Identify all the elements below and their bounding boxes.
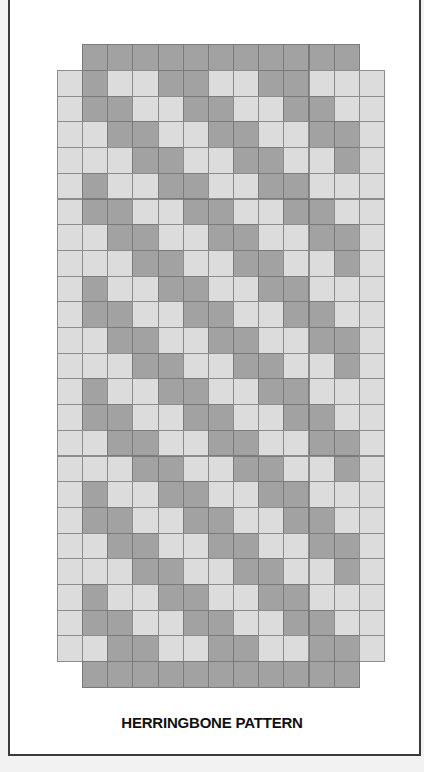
grid-cell-light: [107, 378, 133, 405]
cap-cell-bottom: [208, 661, 234, 688]
grid-cell-dark: [258, 276, 284, 303]
cap-cell-top: [233, 44, 259, 71]
grid-cell-light: [208, 173, 234, 200]
grid-cell-light: [233, 404, 259, 431]
grid-cell-light: [309, 276, 335, 303]
grid-cell-light: [334, 301, 360, 328]
grid-cell-light: [132, 584, 158, 611]
grid-cell-dark: [107, 610, 133, 637]
grid-cell-light: [82, 635, 108, 662]
grid-cell-dark: [82, 481, 108, 508]
grid-cell-light: [57, 327, 83, 354]
grid-cell-dark: [82, 584, 108, 611]
grid-cell-light: [82, 147, 108, 174]
grid-cell-dark: [334, 327, 360, 354]
grid-cell-dark: [208, 96, 234, 123]
grid-cell-light: [233, 70, 259, 97]
grid-cell-dark: [107, 327, 133, 354]
figure-caption: HERRINGBONE PATTERN: [0, 714, 424, 731]
grid-cell-light: [233, 507, 259, 534]
grid-cell-dark: [107, 224, 133, 251]
grid-cell-light: [57, 456, 83, 483]
grid-cell-light: [107, 173, 133, 200]
grid-cell-light: [132, 610, 158, 637]
grid-cell-light: [183, 224, 209, 251]
grid-cell-light: [233, 301, 259, 328]
grid-cell-dark: [183, 610, 209, 637]
grid-cell-light: [158, 404, 184, 431]
grid-cell-light: [82, 430, 108, 457]
grid-cell-light: [57, 533, 83, 560]
cap-cell-bottom: [158, 661, 184, 688]
grid-cell-dark: [233, 430, 259, 457]
grid-cell-dark: [183, 378, 209, 405]
grid-cell-dark: [208, 199, 234, 226]
grid-cell-light: [258, 121, 284, 148]
grid-cell-dark: [183, 70, 209, 97]
grid-cell-light: [57, 481, 83, 508]
grid-cell-light: [208, 481, 234, 508]
grid-cell-light: [57, 147, 83, 174]
grid-cell-light: [82, 224, 108, 251]
grid-cell-dark: [309, 301, 335, 328]
grid-cell-dark: [107, 96, 133, 123]
grid-cell-light: [158, 430, 184, 457]
grid-cell-light: [359, 558, 385, 585]
grid-cell-light: [309, 70, 335, 97]
grid-cell-dark: [283, 70, 309, 97]
grid-cell-dark: [233, 533, 259, 560]
grid-cell-light: [107, 147, 133, 174]
grid-cell-light: [208, 250, 234, 277]
grid-cell-light: [233, 378, 259, 405]
grid-cell-dark: [309, 635, 335, 662]
grid-cell-dark: [334, 224, 360, 251]
grid-cell-light: [309, 481, 335, 508]
grid-cell-light: [82, 121, 108, 148]
grid-cell-dark: [233, 250, 259, 277]
grid-cell-light: [208, 558, 234, 585]
grid-cell-light: [57, 378, 83, 405]
grid-cell-dark: [334, 558, 360, 585]
grid-cell-light: [107, 558, 133, 585]
grid-cell-light: [82, 353, 108, 380]
grid-cell-light: [107, 276, 133, 303]
grid-cell-light: [359, 481, 385, 508]
grid-cell-light: [57, 70, 83, 97]
grid-cell-dark: [309, 224, 335, 251]
grid-cell-light: [309, 456, 335, 483]
grid-cell-light: [57, 173, 83, 200]
grid-cell-dark: [208, 224, 234, 251]
grid-cell-dark: [208, 610, 234, 637]
grid-cell-dark: [283, 199, 309, 226]
grid-cell-light: [132, 301, 158, 328]
grid-cell-dark: [208, 635, 234, 662]
grid-cell-light: [158, 327, 184, 354]
grid-cell-light: [183, 430, 209, 457]
grid-cell-light: [158, 635, 184, 662]
grid-cell-light: [283, 456, 309, 483]
grid-cell-dark: [334, 250, 360, 277]
grid-cell-dark: [132, 533, 158, 560]
grid-cell-light: [309, 558, 335, 585]
grid-cell-dark: [208, 507, 234, 534]
grid-cell-light: [334, 507, 360, 534]
grid-cell-dark: [283, 481, 309, 508]
grid-cell-light: [359, 404, 385, 431]
grid-cell-dark: [158, 250, 184, 277]
grid-cell-dark: [283, 276, 309, 303]
grid-cell-dark: [283, 404, 309, 431]
grid-cell-light: [334, 584, 360, 611]
grid-cell-dark: [283, 584, 309, 611]
grid-cell-dark: [233, 327, 259, 354]
grid-cell-light: [158, 96, 184, 123]
grid-cell-light: [82, 533, 108, 560]
grid-cell-dark: [283, 610, 309, 637]
grid-cell-light: [359, 173, 385, 200]
grid-cell-dark: [208, 327, 234, 354]
grid-cell-light: [82, 327, 108, 354]
grid-cell-light: [57, 507, 83, 534]
grid-cell-light: [233, 96, 259, 123]
grid-cell-dark: [158, 378, 184, 405]
grid-cell-light: [309, 584, 335, 611]
grid-cell-light: [359, 301, 385, 328]
